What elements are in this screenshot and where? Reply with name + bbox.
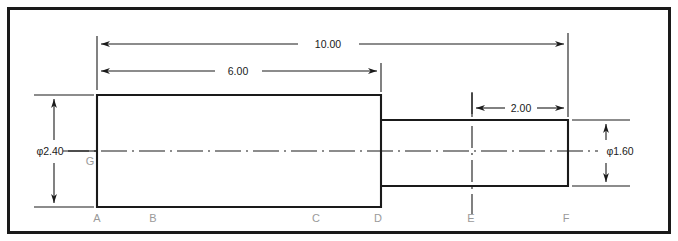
dimension-label-large-length: 6.00 xyxy=(228,65,249,77)
dimension-label-small-length: 2.00 xyxy=(511,102,532,114)
dimension-small-diameter: φ1.60 xyxy=(572,120,634,186)
dimension-large-length: 6.00 xyxy=(101,65,377,77)
point-label-g: G xyxy=(86,155,95,167)
dimension-label-small-diameter: φ1.60 xyxy=(606,145,633,157)
point-label-b: B xyxy=(149,212,156,224)
dimension-label-large-diameter: φ2.40 xyxy=(36,145,63,157)
dimension-label-overall-length: 10.00 xyxy=(315,38,341,50)
point-label-a: A xyxy=(93,212,101,224)
point-labels: A B C D E F G xyxy=(86,155,570,224)
point-label-f: F xyxy=(563,212,570,224)
dimension-overall-length: 10.00 xyxy=(101,38,564,50)
technical-drawing-canvas: 10.00 6.00 2.00 φ2.40 xyxy=(0,0,678,241)
point-label-e: E xyxy=(467,212,474,224)
dimension-small-length: 2.00 xyxy=(476,102,564,114)
point-label-c: C xyxy=(312,212,320,224)
small-cylinder-outline xyxy=(381,120,568,186)
point-label-d: D xyxy=(374,212,382,224)
